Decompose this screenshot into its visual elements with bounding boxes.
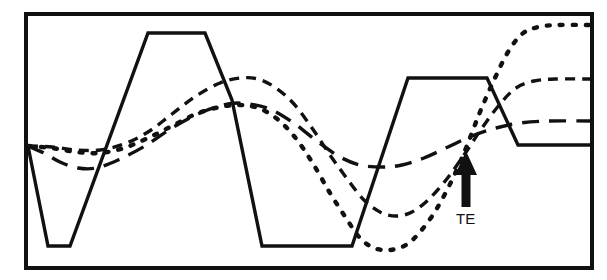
waveform-plot: TE	[0, 0, 607, 280]
waveform-figure: TE	[0, 0, 607, 280]
te-label: TE	[456, 210, 476, 227]
